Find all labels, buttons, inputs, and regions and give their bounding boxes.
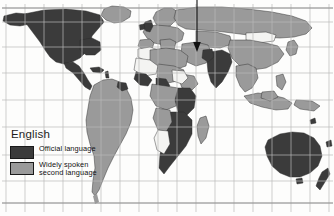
world-map-canvas — [0, 0, 334, 216]
map-legend: English Official language Widely spoken … — [10, 128, 116, 179]
legend-title: English — [11, 128, 116, 140]
legend-label-official: Official language — [39, 145, 96, 153]
legend-entry-second: Widely spoken second language — [10, 161, 116, 177]
official-language-swatch — [10, 146, 34, 159]
legend-entry-official: Official language — [10, 145, 116, 159]
legend-label-second: Widely spoken second language — [39, 161, 97, 177]
region-ireland — [139, 24, 145, 30]
second-language-swatch — [10, 162, 34, 175]
world-map-figure: English Official language Widely spoken … — [0, 0, 334, 216]
